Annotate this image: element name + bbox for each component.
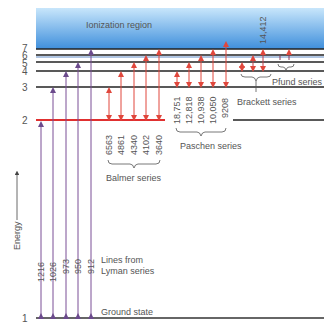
lyman-wl-5: 912	[86, 259, 96, 274]
paschen-wl-5: 9208	[220, 98, 230, 118]
pfund-brace	[278, 64, 294, 70]
balmer-brace	[108, 160, 160, 168]
balmer-wl-5: 3640	[154, 135, 164, 155]
lyman-wl-3: 973	[61, 259, 71, 274]
paschen-series-arrows	[177, 44, 226, 85]
lyman-wl-2: 1026	[48, 262, 58, 282]
brackett-wl-1: 14,412	[258, 16, 268, 44]
ground-state-label: Ground state	[101, 307, 153, 317]
pfund-series-arrows	[280, 52, 289, 60]
lyman-wl-1: 1216	[36, 262, 46, 282]
paschen-wl-4: 10,050	[208, 96, 218, 124]
paschen-label: Paschen series	[180, 141, 242, 151]
level-1-number: 1	[22, 313, 28, 324]
lyman-wl-4: 950	[73, 259, 83, 274]
balmer-label: Balmer series	[106, 173, 162, 183]
brackett-label: Brackett series	[237, 97, 297, 107]
balmer-wl-3: 4340	[129, 135, 139, 155]
level-2-number: 2	[22, 115, 28, 126]
lyman-label-line2: Lyman series	[101, 266, 155, 276]
paschen-wl-1: 18,751	[172, 96, 182, 124]
balmer-wavelengths: 6563 4861 4340 4102 3640	[104, 135, 164, 155]
paschen-wl-3: 10,938	[196, 96, 206, 124]
paschen-brace	[176, 128, 226, 136]
energy-level-diagram: Ionization region 7 6 5 4 3 2 1 Energy 1…	[0, 0, 333, 329]
energy-axis-label: Energy	[12, 221, 22, 250]
lyman-label-line1: Lines from	[101, 255, 143, 265]
balmer-wl-2: 4861	[116, 135, 126, 155]
brackett-brace	[241, 74, 271, 81]
ionization-region	[36, 8, 324, 49]
paschen-wl-2: 12,818	[184, 96, 194, 124]
pfund-label: Pfund series	[272, 77, 323, 87]
balmer-wl-1: 6563	[104, 135, 114, 155]
level-3-number: 3	[22, 82, 28, 93]
paschen-wavelengths: 18,751 12,818 10,938 10,050 9208	[172, 96, 230, 124]
ionization-label: Ionization region	[86, 20, 152, 30]
balmer-wl-4: 4102	[141, 135, 151, 155]
level-4-number: 4	[22, 66, 28, 77]
